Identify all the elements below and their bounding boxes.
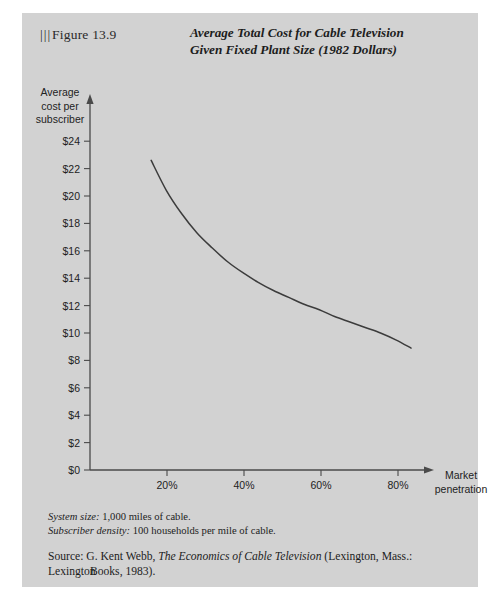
source-note: Source: G. Kent Webb, The Economics of C… <box>48 549 460 579</box>
x-tick-label-20: 20% <box>145 479 189 491</box>
x-tick-label-80: 80% <box>376 479 420 491</box>
y-axis-ticks <box>84 141 90 470</box>
x-axis-title: Market penetration <box>426 469 496 496</box>
cost-curve <box>151 160 411 348</box>
x-tick-label-60: 60% <box>299 479 343 491</box>
y-tick-label-14: $14 <box>34 272 80 284</box>
y-tick-label-0: $0 <box>34 464 80 476</box>
chart-plot-area: Average cost per subscriber Market penet… <box>22 13 478 513</box>
y-tick-label-4: $4 <box>34 409 80 421</box>
note-system-size-label: System size: <box>48 511 99 522</box>
y-axis-title: Average cost per subscriber <box>30 86 90 127</box>
note-subscriber-density-label: Subscriber density: <box>48 525 130 536</box>
figure-notes: System size: 1,000 miles of cable. Subsc… <box>48 510 460 579</box>
y-tick-label-10: $10 <box>34 327 80 339</box>
x-axis-title-line-1: Market <box>426 469 496 483</box>
y-tick-label-20: $20 <box>34 190 80 202</box>
y-tick-label-2: $2 <box>34 437 80 449</box>
y-axis-title-line-3: subscriber <box>30 113 90 127</box>
x-axis-ticks <box>167 470 398 476</box>
note-system-size-value: 1,000 miles of cable. <box>102 511 191 522</box>
note-subscriber-density-value: 100 households per mile of cable. <box>133 525 276 536</box>
note-subscriber-density: Subscriber density: 100 households per m… <box>48 524 460 538</box>
y-tick-label-18: $18 <box>34 217 80 229</box>
y-tick-label-24: $24 <box>34 135 80 147</box>
source-publisher-line-2: Books, 1983). <box>48 564 460 579</box>
source-title: The Economics of Cable Television <box>158 550 321 563</box>
source-lead: Source: <box>48 550 83 563</box>
chart-svg <box>22 13 478 513</box>
y-tick-label-8: $8 <box>34 354 80 366</box>
note-system-size: System size: 1,000 miles of cable. <box>48 510 460 524</box>
y-tick-label-12: $12 <box>34 300 80 312</box>
x-tick-label-40: 40% <box>222 479 266 491</box>
y-axis-title-line-2: cost per <box>30 100 90 114</box>
source-author: G. Kent Webb, <box>86 550 155 563</box>
y-tick-label-22: $22 <box>34 163 80 175</box>
y-tick-label-6: $6 <box>34 382 80 394</box>
figure-page: |||Figure 13.9 Average Total Cost for Ca… <box>22 13 478 587</box>
x-axis-title-line-2: penetration <box>426 483 496 497</box>
y-axis-title-line-1: Average <box>30 86 90 100</box>
y-tick-label-16: $16 <box>34 245 80 257</box>
